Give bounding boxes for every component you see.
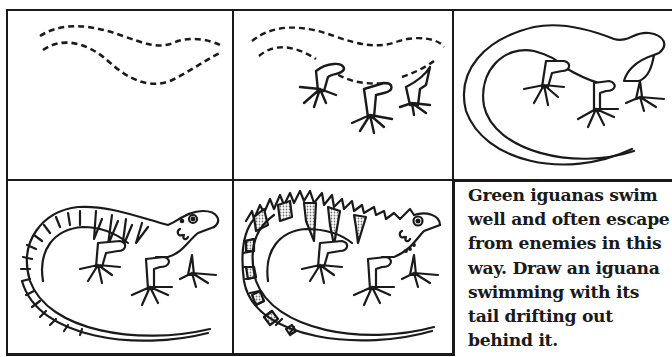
step-4-panel: [8, 181, 232, 353]
iguana-legs-sketch: [234, 11, 452, 179]
step-1-panel: [8, 11, 232, 179]
step-2-panel: [234, 11, 452, 179]
step-5-panel: [234, 181, 452, 353]
iguana-outline-sketch: [8, 11, 232, 179]
iguana-striped-drawing: [8, 181, 232, 353]
instruction-caption: Green iguanas swim well and often escape…: [468, 183, 672, 352]
step-3-panel: [454, 11, 672, 179]
iguana-body-outline: [454, 11, 672, 179]
drawing-worksheet: Green iguanas swim well and often escape…: [0, 0, 672, 357]
iguana-finished-drawing: [234, 181, 452, 353]
